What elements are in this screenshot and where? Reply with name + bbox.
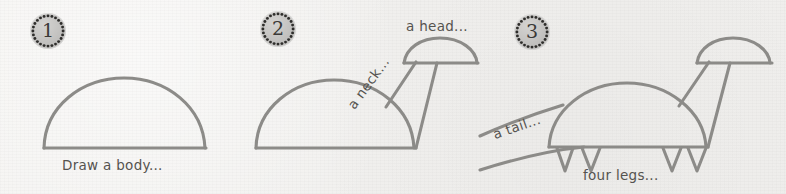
- tutorial-page: 1 Draw a body... 2: [0, 0, 786, 194]
- caption-a-head: a head...: [406, 18, 468, 34]
- step-2-badge: 2: [260, 11, 296, 47]
- caption-four-legs: four legs...: [583, 167, 659, 183]
- caption-draw-a-body: Draw a body...: [62, 157, 163, 173]
- caption-a-tail: a tail...: [491, 111, 543, 142]
- body-dome-shape: [256, 80, 414, 148]
- leg-4-shape: [688, 148, 706, 171]
- caption-a-neck: a neck...: [344, 54, 392, 112]
- body-dome-shape: [44, 78, 205, 148]
- body-dome-shape: [549, 83, 706, 147]
- neck-left-line: [386, 62, 416, 107]
- head-dome-shape: [697, 38, 770, 63]
- head-dome-shape: [404, 38, 477, 63]
- leg-1-shape: [557, 148, 573, 171]
- step-1-badge: 1: [30, 13, 66, 49]
- neck-right-line: [708, 63, 730, 147]
- tail-lower-line: [480, 147, 584, 170]
- neck-left-line: [679, 62, 709, 106]
- leg-3-shape: [663, 148, 681, 171]
- step-2-number: 2: [260, 11, 296, 47]
- step-1-number: 1: [30, 13, 66, 49]
- step-3-number: 3: [514, 14, 550, 50]
- step-3-badge: 3: [514, 14, 550, 50]
- neck-right-line: [416, 63, 437, 148]
